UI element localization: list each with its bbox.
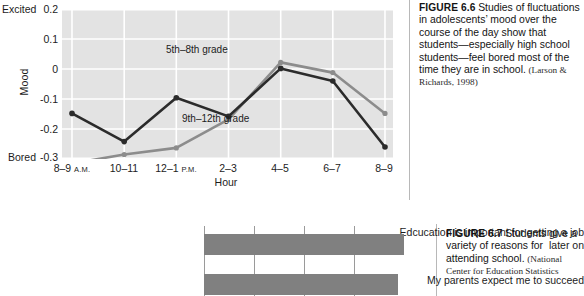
y-tick-label: 0.1 — [4, 33, 58, 45]
x-tick-main: 8–9 — [54, 162, 72, 174]
x-tick-main: 6–7 — [323, 162, 341, 174]
x-tick-main: 10–11 — [110, 162, 138, 174]
x-axis-title: Hour — [196, 176, 256, 188]
column-divider-rule-top — [409, 0, 410, 200]
x-tick-label: 8–9 — [350, 162, 418, 174]
x-tick-ampm: A.M. — [74, 165, 90, 174]
y-axis-tick-labels: 0.2 0.1 0 -0.1 -0.2 -0.3 — [0, 0, 58, 170]
line-chart-svg — [62, 9, 393, 159]
vertical-gridlines — [72, 9, 385, 159]
figure-6-6-caption-number: FIGURE 6.6 — [419, 2, 475, 13]
y-tick-label: 0.2 — [4, 3, 58, 15]
figure-6-7-caption: FIGURE 6.7 Students give a variety of re… — [446, 228, 582, 278]
x-tick-main: 2–3 — [219, 162, 237, 174]
bar — [204, 274, 398, 295]
bar-chart-plot-area — [204, 226, 404, 296]
bar — [204, 234, 404, 255]
x-tick-main: 12–1 — [155, 162, 178, 174]
figure-6-6-caption: FIGURE 6.6 Studies of fluctuations in ad… — [419, 2, 582, 89]
series-annotation-5th-8th-grade: 5th–8th grade — [166, 44, 228, 55]
y-tick-label: -0.2 — [4, 123, 58, 135]
x-tick-main: 4–5 — [271, 162, 289, 174]
y-tick-label: -0.1 — [4, 93, 58, 105]
y-tick-label: 0 — [4, 63, 58, 75]
x-tick-main: 8–9 — [375, 162, 393, 174]
figure-6-7-caption-number: FIGURE 6.7 — [446, 228, 502, 239]
series-annotation-9th-12th-grade: 9th–12th grade — [182, 113, 249, 124]
line-chart-plot-area — [62, 9, 393, 159]
